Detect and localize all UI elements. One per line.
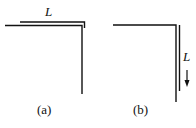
diagram-canvas: L (a) L (b) [0, 0, 196, 128]
caption-b: (b) [133, 102, 148, 117]
outer-angle-a [5, 26, 82, 95]
outer-angle-b [113, 25, 176, 102]
panel-b: L (b) [113, 25, 190, 117]
caption-a: (a) [37, 102, 51, 117]
length-label-b: L [182, 49, 190, 64]
panel-a: L (a) [5, 4, 85, 117]
figure: L (a) L (b) [0, 0, 196, 128]
down-arrow-icon [185, 70, 190, 87]
length-label-a: L [44, 4, 52, 19]
